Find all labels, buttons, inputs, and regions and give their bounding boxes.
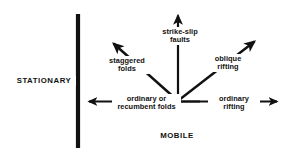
label-ordinary-or-recumbent-folds: ordinary or recumbent folds	[112, 94, 181, 112]
label-oblique-rifting-line2: rifting	[205, 63, 251, 72]
label-stationary: STATIONARY	[12, 76, 76, 86]
tectonic-deformation-diagram: strike-slip faults staggered folds obliq…	[0, 0, 289, 157]
label-strike-slip-faults-line2: faults	[154, 36, 206, 45]
label-ordinary-rifting: ordinary rifting	[208, 94, 260, 112]
label-ordinary-rifting-line2: rifting	[210, 103, 258, 112]
label-oblique-rifting: oblique rifting	[203, 54, 253, 72]
label-strike-slip-faults: strike-slip faults	[152, 27, 208, 45]
label-mobile: MOBILE	[153, 131, 201, 141]
label-ordinary-or-recumbent-folds-line2: recumbent folds	[114, 103, 179, 112]
label-staggered-folds-line2: folds	[103, 65, 151, 74]
label-staggered-folds: staggered folds	[101, 56, 153, 74]
